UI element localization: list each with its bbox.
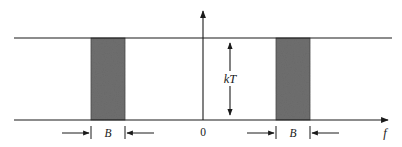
origin-label: 0 [200,126,206,138]
band-group [91,38,310,120]
figure-canvas: kT 0 f B B [0,0,402,147]
kt-label: kT [224,72,238,86]
frequency-axis-label: f [383,126,388,140]
noise-psd-figure: kT 0 f B B [0,0,402,147]
bandwidth-right-label: B [289,127,296,139]
kt-dimension: kT [220,43,241,115]
bandwidth-marker-right: B [247,126,339,139]
bandwidth-marker-left: B [62,126,154,139]
negative-frequency-band [91,38,125,120]
bandwidth-left-label: B [104,127,111,139]
positive-frequency-band [276,38,310,120]
